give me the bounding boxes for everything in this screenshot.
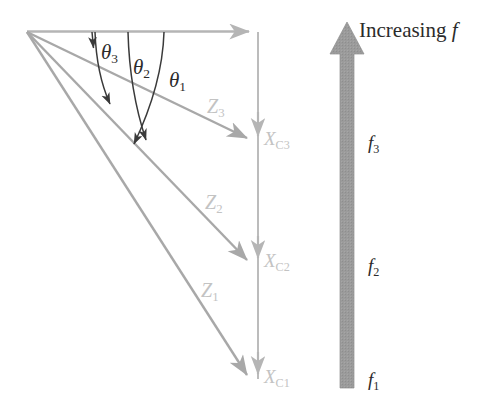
cross-range-label-xc1: XC1: [264, 367, 290, 389]
angle-arc-theta1: [134, 32, 164, 144]
cross-range-label-xc3: XC3: [264, 129, 290, 151]
ray-label-z3: Z3: [207, 96, 225, 120]
figure-canvas: θ3 θ2 θ1 Z3 Z2 Z1 XC3 XC2 XC1 Increasing…: [0, 0, 481, 417]
frequency-tick-label-f2: f2: [368, 256, 379, 278]
increasing-frequency-title: Increasing f: [359, 20, 458, 41]
diagram-vector-layer: [0, 0, 481, 417]
increasing-frequency-arrow: [330, 22, 364, 388]
ray-label-z2: Z2: [205, 192, 223, 216]
angle-label-theta3: θ3: [101, 42, 118, 66]
angle-label-theta2: θ2: [133, 57, 150, 81]
ray-label-z1: Z1: [201, 280, 219, 304]
cross-range-label-xc2: XC2: [264, 251, 290, 273]
angle-label-theta1: θ1: [169, 70, 186, 94]
frequency-tick-label-f1: f1: [368, 370, 379, 392]
angle-start-tick-theta3: [92, 32, 94, 48]
frequency-tick-label-f3: f3: [368, 133, 379, 155]
